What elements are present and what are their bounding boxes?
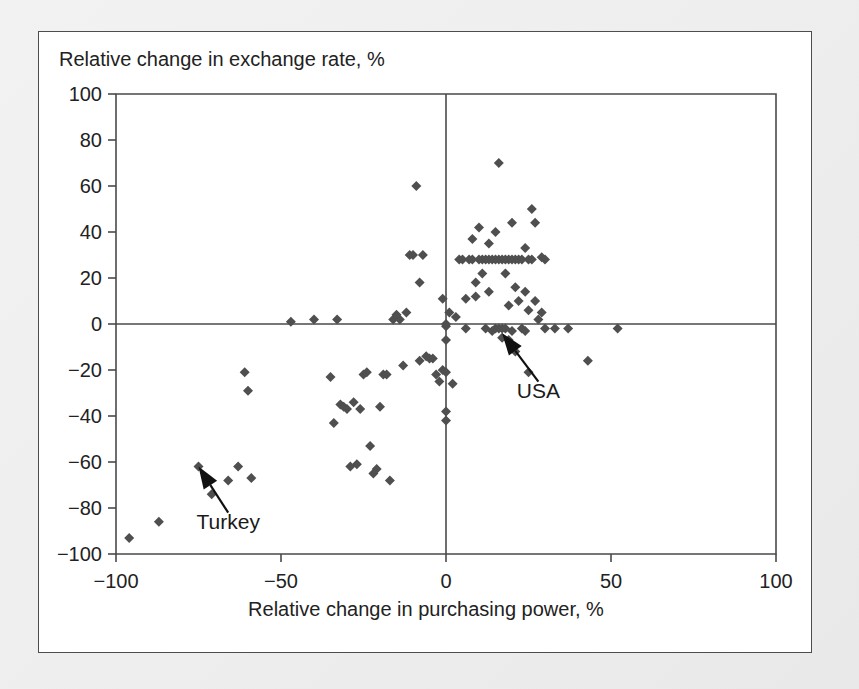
x-axis-tick-labels: −100−50050100 [93, 570, 792, 592]
data-point [375, 402, 385, 412]
data-point [286, 317, 296, 327]
scatter-chart-figure: Relative change in exchange rate, % −100… [39, 32, 811, 652]
x-tick-label: 50 [600, 570, 622, 592]
annotation-label-turkey: Turkey [196, 510, 260, 533]
data-point [471, 278, 481, 288]
y-tick-label: −60 [68, 451, 102, 473]
y-tick-label: 100 [69, 83, 102, 105]
data-point [491, 227, 501, 237]
data-point [441, 335, 451, 345]
data-point [550, 324, 560, 334]
data-point [365, 441, 375, 451]
data-point [613, 324, 623, 334]
data-point [418, 250, 428, 260]
y-tick-label: −100 [57, 543, 102, 565]
data-point [474, 222, 484, 232]
data-point [583, 356, 593, 366]
data-point [477, 268, 487, 278]
data-point [504, 301, 514, 311]
data-point [441, 406, 451, 416]
data-point [385, 475, 395, 485]
y-tick-label: 20 [80, 267, 102, 289]
y-axis-ticks [108, 94, 116, 554]
data-point [243, 386, 253, 396]
data-point [514, 296, 524, 306]
data-point [448, 379, 458, 389]
data-point [471, 291, 481, 301]
data-point [524, 305, 534, 315]
y-tick-label: 0 [91, 313, 102, 335]
annotation-arrow-shaft-usa [515, 351, 538, 382]
annotation-arrow-shaft-turkey [210, 485, 228, 513]
annotation-arrow-head-turkey [199, 467, 218, 490]
y-tick-label: 80 [80, 129, 102, 151]
data-point [441, 416, 451, 426]
figure-outer-frame: Relative change in exchange rate, % −100… [38, 31, 812, 653]
x-axis-title: Relative change in purchasing power, % [248, 598, 604, 620]
y-tick-label: 60 [80, 175, 102, 197]
y-tick-label: −20 [68, 359, 102, 381]
x-tick-label: −50 [264, 570, 298, 592]
data-point [520, 287, 530, 297]
data-point [223, 475, 233, 485]
chart-annotations: TurkeyUSA [196, 333, 559, 533]
data-point [484, 239, 494, 249]
y-axis-tick-labels: −100−80−60−40−20020406080100 [57, 83, 102, 565]
data-point [349, 397, 359, 407]
chart-canvas: Relative change in exchange rate, % −100… [39, 32, 813, 654]
data-point [233, 462, 243, 472]
data-point [415, 278, 425, 288]
data-point [530, 218, 540, 228]
y-tick-label: −40 [68, 405, 102, 427]
y-tick-label: 40 [80, 221, 102, 243]
data-point [527, 204, 537, 214]
data-point [124, 533, 134, 543]
data-point [355, 404, 365, 414]
data-point [329, 418, 339, 428]
data-point [494, 158, 504, 168]
data-point [461, 294, 471, 304]
scatter-points [124, 158, 622, 543]
data-point [401, 308, 411, 318]
data-point [510, 282, 520, 292]
data-point [467, 234, 477, 244]
data-point [563, 324, 573, 334]
data-point [398, 360, 408, 370]
x-tick-label: 100 [759, 570, 792, 592]
y-axis-title: Relative change in exchange rate, % [59, 48, 385, 70]
data-point [246, 473, 256, 483]
data-point [326, 372, 336, 382]
data-point [411, 181, 421, 191]
annotation-label-usa: USA [517, 379, 560, 402]
data-point [530, 296, 540, 306]
data-point [540, 324, 550, 334]
x-axis-ticks [116, 554, 776, 562]
x-tick-label: −100 [93, 570, 138, 592]
y-tick-label: −80 [68, 497, 102, 519]
data-point [309, 314, 319, 324]
data-point [484, 287, 494, 297]
data-point [507, 218, 517, 228]
data-point [240, 367, 250, 377]
data-point [154, 517, 164, 527]
data-point [332, 314, 342, 324]
data-point [520, 243, 530, 253]
data-point [461, 324, 471, 334]
data-point [500, 268, 510, 278]
x-tick-label: 0 [440, 570, 451, 592]
